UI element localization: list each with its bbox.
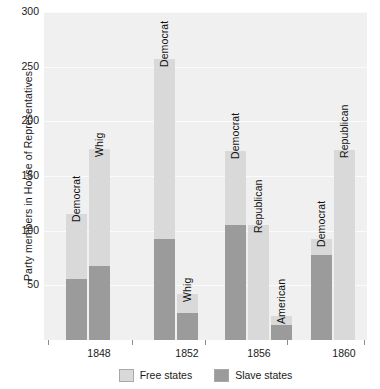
y-tick-label-50: 50 — [9, 278, 39, 290]
bar-segment-free-states — [334, 150, 355, 340]
bar-segment-free-states — [248, 225, 269, 340]
x-tick-mark-3 — [287, 340, 288, 345]
legend-item-slave-states: Slave states — [214, 369, 292, 382]
bar-label-1860-democrat: Democrat — [315, 201, 327, 247]
x-tick-label-1848: 1848 — [69, 347, 129, 359]
x-tick-mark-0 — [48, 340, 49, 345]
bar-1860-republican — [334, 150, 355, 340]
bar-1856-republican — [248, 225, 269, 340]
bar-label-1848-whig: Whig — [93, 132, 105, 156]
bar-segment-slave-states — [66, 279, 87, 340]
x-tick-mark-1 — [132, 340, 133, 345]
bar-segment-slave-states — [89, 266, 110, 340]
gridline-250 — [44, 67, 367, 68]
legend-swatch-slave-icon — [214, 369, 229, 382]
bar-label-1848-democrat: Democrat — [70, 176, 82, 222]
legend-label-free: Free states — [140, 369, 193, 381]
bar-chart: Party members in House of Representative… — [0, 0, 380, 389]
bar-1860-democrat — [311, 239, 332, 340]
bar-segment-free-states — [66, 214, 87, 279]
bar-segment-free-states — [154, 59, 175, 239]
bar-label-1856-republican: Republican — [252, 180, 264, 234]
bar-label-1860-republican: Republican — [338, 104, 350, 158]
x-tick-label-1852: 1852 — [157, 347, 217, 359]
bar-1856-democrat — [225, 151, 246, 340]
y-tick-label-150: 150 — [9, 169, 39, 181]
bar-segment-slave-states — [271, 325, 292, 340]
legend-label-slave: Slave states — [235, 369, 292, 381]
y-tick-label-300: 300 — [9, 5, 39, 17]
x-tick-label-1860: 1860 — [314, 347, 374, 359]
bar-segment-free-states — [225, 151, 246, 225]
x-tick-mark-2 — [205, 340, 206, 345]
gridline-300 — [44, 12, 367, 13]
bar-segment-free-states — [89, 149, 110, 266]
chart-legend: Free states Slave states — [44, 366, 367, 384]
gridline-200 — [44, 121, 367, 122]
bar-label-1852-democrat: Democrat — [158, 21, 170, 67]
legend-swatch-free-icon — [119, 369, 134, 382]
bar-1852-democrat — [154, 59, 175, 340]
y-tick-label-100: 100 — [9, 224, 39, 236]
x-tick-label-1856: 1856 — [229, 347, 289, 359]
bar-1848-whig — [89, 149, 110, 340]
y-tick-label-250: 250 — [9, 60, 39, 72]
bar-segment-slave-states — [225, 225, 246, 340]
bar-label-1856-american: American — [275, 279, 287, 324]
bar-segment-slave-states — [177, 313, 198, 340]
bar-segment-slave-states — [311, 255, 332, 340]
bar-label-1856-democrat: Democrat — [229, 113, 241, 159]
bar-1848-democrat — [66, 214, 87, 340]
plot-area: DemocratWhigDemocratWhigDemocratRepublic… — [44, 12, 367, 340]
legend-item-free-states: Free states — [119, 369, 193, 382]
x-axis: 1848185218561860 — [44, 340, 367, 362]
y-tick-label-200: 200 — [9, 114, 39, 126]
bar-segment-slave-states — [154, 239, 175, 340]
x-tick-mark-4 — [364, 340, 365, 345]
bar-label-1852-whig: Whig — [181, 278, 193, 302]
